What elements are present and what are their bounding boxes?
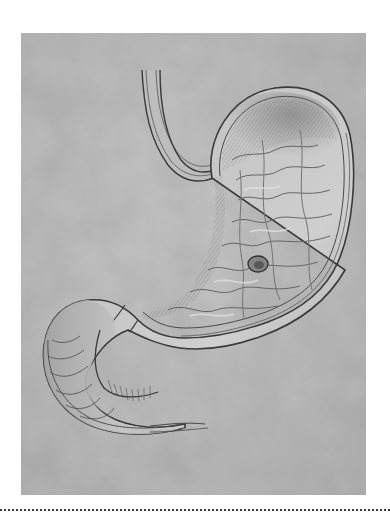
stomach-illustration	[21, 33, 366, 495]
stomach-illustration-svg	[21, 33, 366, 495]
dotted-divider	[0, 509, 390, 511]
